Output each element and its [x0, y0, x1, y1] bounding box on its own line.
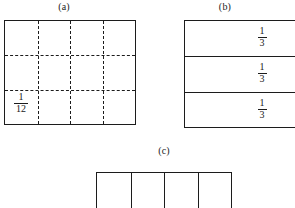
- panel-b-row-1-label: 1 3: [247, 26, 277, 48]
- panel-a-vertical-divider-3: [103, 21, 104, 124]
- fraction-numerator: 1: [258, 98, 267, 109]
- fraction-one-twelfth: 1 12: [14, 92, 28, 114]
- fraction-denominator: 3: [258, 37, 267, 49]
- panel-c-rectangle: [96, 172, 232, 208]
- panel-a-horizontal-divider-1: [5, 55, 135, 56]
- fraction-numerator: 1: [258, 62, 267, 73]
- panel-a-horizontal-divider-2: [5, 90, 135, 91]
- panel-c-vertical-divider-3: [198, 173, 199, 208]
- fraction-denominator: 12: [14, 103, 28, 115]
- fraction-denominator: 3: [258, 73, 267, 85]
- fraction-partition-figure: (a) 1 12 (b) 1 3 1 3 1: [0, 0, 295, 208]
- panel-a-fraction-label: 1 12: [9, 92, 33, 114]
- panel-b-row-2-label: 1 3: [247, 62, 277, 84]
- panel-a-vertical-divider-1: [38, 21, 39, 124]
- fraction-one-third: 1 3: [258, 98, 267, 120]
- panel-c-caption: (c): [144, 145, 184, 156]
- fraction-numerator: 1: [14, 92, 28, 103]
- panel-b-horizontal-divider-1: [185, 56, 295, 57]
- panel-a-caption: (a): [44, 1, 84, 12]
- panel-b-horizontal-divider-2: [185, 92, 295, 93]
- panel-c-vertical-divider-1: [131, 173, 132, 208]
- panel-b-caption: (b): [205, 1, 245, 12]
- panel-a-vertical-divider-2: [70, 21, 71, 124]
- fraction-one-third: 1 3: [258, 62, 267, 84]
- fraction-denominator: 3: [258, 109, 267, 121]
- panel-b-rectangle: [184, 20, 295, 128]
- panel-c-vertical-divider-2: [164, 173, 165, 208]
- fraction-numerator: 1: [258, 26, 267, 37]
- fraction-one-third: 1 3: [258, 26, 267, 48]
- panel-b-row-3-label: 1 3: [247, 98, 277, 120]
